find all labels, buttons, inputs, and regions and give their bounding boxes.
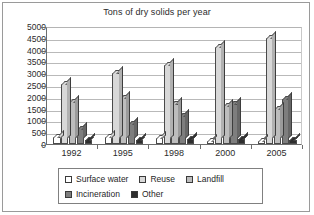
legend-swatch-icon [131, 191, 138, 198]
legend-item-incineration[interactable]: Incineration [65, 190, 120, 199]
x-axis-label-1995: 1995 [98, 148, 148, 158]
bar-surface-water-2000 [207, 141, 214, 144]
x-axis-label-1992: 1992 [47, 148, 97, 158]
y-axis-tick-mark [41, 145, 46, 146]
bar-side-face [237, 97, 241, 139]
x-axis-tick-mark [302, 145, 303, 149]
chart-title: Tons of dry solids per year [0, 7, 314, 17]
bar-group [47, 28, 98, 144]
bar-group [201, 28, 252, 144]
legend-item-other[interactable]: Other [131, 190, 163, 199]
legend-swatch-icon [186, 176, 193, 183]
y-axis-tick-label: 3000 [4, 70, 46, 79]
y-axis-tick-label: 2500 [4, 82, 46, 91]
y-axis: 5000450040003500300025002000150010005000 [0, 27, 46, 145]
legend-label: Landfill [197, 175, 224, 184]
bar-other-1992 [85, 140, 92, 144]
bar-other-2000 [238, 139, 245, 144]
bar-side-face [229, 99, 233, 139]
bar-group [98, 28, 149, 144]
legend-row: IncinerationOther [65, 187, 256, 202]
legend-item-surface-water[interactable]: Surface water [65, 175, 128, 184]
y-axis-tick-label: 500 [4, 129, 46, 138]
bar-side-face [126, 91, 130, 139]
legend-item-reuse[interactable]: Reuse [139, 175, 175, 184]
legend-label: Surface water [76, 175, 128, 184]
bar-side-face [83, 122, 87, 139]
bar-side-face [67, 77, 71, 139]
x-axis-label-1998: 1998 [149, 148, 199, 158]
bar-top-face [85, 137, 94, 141]
y-axis-tick-label: 4500 [4, 35, 46, 44]
plot-area [46, 27, 302, 145]
bar-side-face [296, 133, 300, 139]
y-axis-tick-label: 3500 [4, 58, 46, 67]
bar-other-1995 [136, 140, 143, 144]
bar-side-face [185, 109, 189, 139]
legend-swatch-icon [65, 176, 72, 183]
legend-swatch-icon [139, 176, 146, 183]
y-axis-tick-label: 1500 [4, 106, 46, 115]
bar-side-face [178, 97, 182, 139]
bar-other-2005 [289, 140, 296, 144]
bar-top-face [238, 136, 247, 140]
bar-side-face [221, 40, 225, 139]
bar-side-face [280, 102, 284, 139]
legend-item-landfill[interactable]: Landfill [186, 175, 224, 184]
bar-reuse-2000 [215, 47, 222, 144]
y-axis-tick-label: 5000 [4, 23, 46, 32]
legend-label: Other [142, 190, 163, 199]
y-axis-tick-label: 1000 [4, 117, 46, 126]
bar-other-1998 [187, 139, 194, 144]
x-axis-label-2000: 2000 [200, 148, 250, 158]
y-axis-tick-label: 4000 [4, 47, 46, 56]
bar-surface-water-1992 [53, 137, 60, 144]
legend-label: Incineration [76, 190, 120, 199]
x-axis-label-2005: 2005 [251, 148, 301, 158]
bar-side-face [288, 92, 292, 139]
bar-reuse-2005 [266, 38, 273, 144]
legend-swatch-icon [65, 191, 72, 198]
bar-side-face [75, 95, 79, 139]
bar-side-face [170, 58, 174, 139]
bar-group [149, 28, 200, 144]
bar-side-face [272, 31, 276, 139]
legend-label: Reuse [150, 175, 175, 184]
bar-group [252, 28, 303, 144]
chart-container: Tons of dry solids per year 500045004000… [0, 0, 314, 215]
y-axis-tick-label: 0 [4, 141, 46, 150]
bar-side-face [134, 117, 138, 139]
chart-legend: Surface waterReuseLandfillIncinerationOt… [58, 168, 263, 204]
bar-side-face [119, 66, 123, 139]
bar-surface-water-1998 [156, 138, 163, 144]
bar-surface-water-1995 [105, 137, 112, 144]
y-axis-tick-label: 2000 [4, 94, 46, 103]
legend-row: Surface waterReuseLandfill [65, 172, 256, 187]
bar-surface-water-2005 [258, 141, 265, 144]
